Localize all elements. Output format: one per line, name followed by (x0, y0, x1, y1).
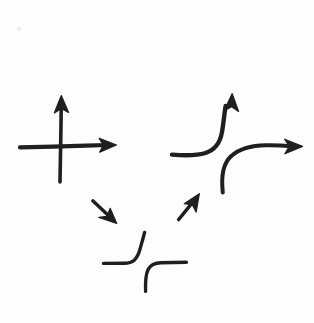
sketch-canvas (0, 0, 314, 323)
sketch-drawing (0, 0, 314, 323)
curved-arrow-bending-upward (172, 94, 239, 156)
curved-arrow-bending-rightward (222, 139, 302, 192)
curve-up-stroke (172, 106, 226, 155)
step-curve-rising-right (145, 262, 186, 291)
small-arrow-pointing-down-right (93, 201, 117, 224)
curve-up-arrowhead-icon (224, 94, 238, 112)
coordinate-axes-crosshair (20, 96, 117, 183)
faint-speck (17, 27, 21, 31)
axis-horizontal-line (20, 145, 109, 147)
step-curve-rising-left (104, 232, 145, 263)
step-left-stroke (104, 232, 145, 263)
small-arrow-pointing-up-right (179, 194, 200, 220)
step-right-stroke (145, 262, 186, 291)
curve-right-stroke (222, 145, 291, 192)
